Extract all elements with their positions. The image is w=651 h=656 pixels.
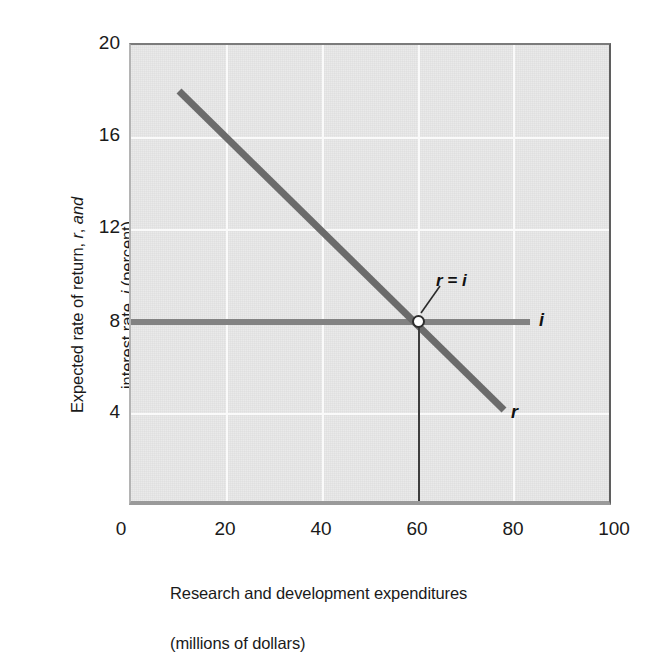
x-tick-60: 60 (406, 519, 427, 538)
x-tick-40: 40 (310, 519, 331, 538)
x-axis-title: Research and development expenditures (m… (170, 556, 630, 656)
series-label-i: i (539, 311, 544, 329)
y-tick-8: 8 (10, 311, 120, 330)
series-label-r: r (511, 403, 518, 421)
x-tick-100: 100 (598, 519, 630, 538)
equilibrium-label: r = i (436, 272, 467, 289)
equilibrium-leader-svg (407, 278, 527, 338)
series-line-r-svg (131, 45, 609, 501)
y-tick-4: 4 (10, 402, 120, 421)
equilibrium-dropline (418, 322, 420, 501)
plot-area: r = i i r (129, 43, 611, 505)
x-axis-title-line1: Research and development expenditures (170, 581, 630, 606)
series-line-r (179, 91, 504, 410)
x-tick-80: 80 (502, 519, 523, 538)
x-tick-20: 20 (214, 519, 235, 538)
equilibrium-leader-line (421, 286, 440, 313)
y-tick-16: 16 (10, 125, 120, 144)
x-tick-0: 0 (116, 519, 127, 538)
y-tick-20: 20 (10, 33, 120, 52)
y-axis-tick-labels: 20 16 12 8 4 (8, 0, 120, 614)
y-tick-12: 12 (10, 217, 120, 236)
x-axis-title-line2: (millions of dollars) (170, 631, 630, 656)
